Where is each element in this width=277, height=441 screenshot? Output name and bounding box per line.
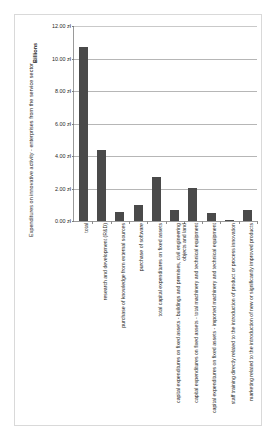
y-axis-scale-label: Billions: [32, 43, 38, 63]
y-axis-tick-label: 4.00 zł: [55, 153, 71, 159]
x-axis-category-label: total capital expenditures on fixed asse…: [158, 27, 164, 223]
y-axis-tick-label: 8.00 zł: [55, 88, 71, 94]
x-axis-category-label: marketing related to the introduction of…: [249, 27, 255, 223]
y-axis-tick-label: 0.00 zł: [55, 218, 71, 224]
x-axis-category-label: capital expenditures on fixed assets - i…: [212, 27, 218, 223]
y-axis-tick-label: 6.00 zł: [55, 121, 71, 127]
x-axis-category-label: capital expenditures on fixed assets - t…: [194, 27, 200, 223]
y-axis-tick-label: 12.00 zł: [52, 23, 71, 29]
plot-area: 12.00 zł10.00 zł8.00 zł6.00 zł4.00 zł2.0…: [73, 26, 257, 222]
y-axis-tick-mark: [72, 221, 75, 222]
x-axis-category-label: total: [84, 27, 90, 223]
chart-container: Expenditures on innovative activity - en…: [14, 14, 262, 426]
x-axis-category-label: capital expenditures on fixed assets - b…: [176, 27, 188, 223]
y-axis-tick-label: 10.00 zł: [52, 56, 71, 62]
x-axis-category-label: staff training directly related to the i…: [231, 27, 237, 223]
x-axis-category-label: research and development (R&D): [103, 27, 109, 223]
bar-series: [74, 26, 257, 221]
x-axis-category-label: purchase of software: [139, 27, 145, 223]
x-axis-category-labels: totalresearch and development (R&D)purch…: [73, 223, 258, 423]
x-axis-category-label: purchase of knowledge from external sour…: [121, 27, 127, 223]
y-axis-tick-label: 2.00 zł: [55, 186, 71, 192]
y-axis-scale-container: Billions: [28, 15, 44, 75]
